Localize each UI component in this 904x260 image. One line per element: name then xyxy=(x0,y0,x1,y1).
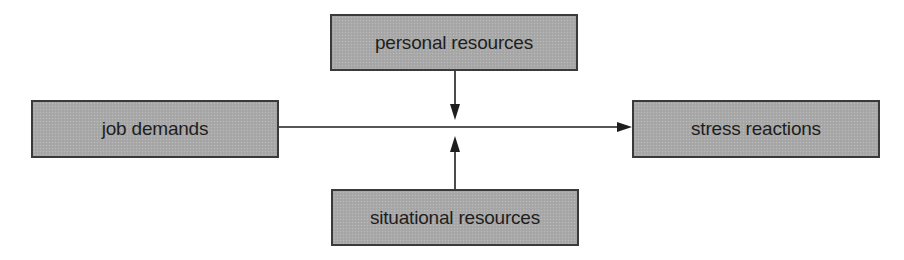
node-label: job demands xyxy=(102,118,209,140)
node-label: situational resources xyxy=(370,207,540,229)
main-arrowhead-icon xyxy=(617,122,632,132)
up-arrowhead-icon xyxy=(450,136,460,152)
node-situational-resources: situational resources xyxy=(331,189,579,246)
node-label: stress reactions xyxy=(691,118,821,140)
node-job-demands: job demands xyxy=(31,100,279,158)
down-arrowhead-icon xyxy=(450,104,460,120)
node-personal-resources: personal resources xyxy=(330,14,578,71)
node-label: personal resources xyxy=(375,32,533,54)
node-stress-reactions: stress reactions xyxy=(632,100,880,158)
